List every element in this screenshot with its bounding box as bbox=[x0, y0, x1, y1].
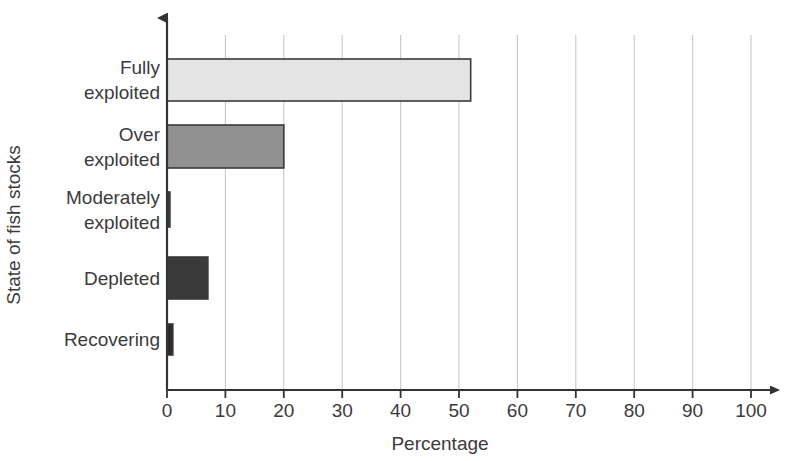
x-axis-title: Percentage bbox=[391, 433, 488, 454]
x-tick-label-90: 90 bbox=[682, 400, 703, 421]
x-tick-label-40: 40 bbox=[390, 400, 411, 421]
x-tick-label-80: 80 bbox=[624, 400, 645, 421]
category-label-over-exploited: Overexploited bbox=[84, 124, 161, 170]
category-label-moderately-exploited: Moderatelyexploited bbox=[66, 187, 160, 233]
bars-group bbox=[167, 59, 471, 355]
x-tick-label-60: 60 bbox=[507, 400, 528, 421]
x-tick-label-100: 100 bbox=[735, 400, 767, 421]
x-tick-label-30: 30 bbox=[332, 400, 353, 421]
bar-over-exploited bbox=[167, 125, 284, 168]
category-label-depleted: Depleted bbox=[84, 268, 160, 289]
y-axis-category-labels: FullyexploitedOverexploitedModeratelyexp… bbox=[64, 57, 161, 350]
chart-canvas: 0102030405060708090100 FullyexploitedOve… bbox=[0, 0, 788, 461]
bar-fully-exploited bbox=[167, 59, 471, 101]
x-tick-label-70: 70 bbox=[565, 400, 586, 421]
category-label-fully-exploited: Fullyexploited bbox=[84, 57, 161, 103]
x-tick-label-0: 0 bbox=[162, 400, 173, 421]
category-label-recovering: Recovering bbox=[64, 329, 160, 350]
x-axis-ticks bbox=[167, 390, 751, 398]
x-tick-label-20: 20 bbox=[273, 400, 294, 421]
x-axis-tick-labels: 0102030405060708090100 bbox=[162, 400, 767, 421]
x-tick-label-10: 10 bbox=[215, 400, 236, 421]
bar-chart: 0102030405060708090100 FullyexploitedOve… bbox=[0, 0, 788, 461]
x-tick-label-50: 50 bbox=[448, 400, 469, 421]
bar-depleted bbox=[167, 257, 208, 299]
y-axis-title: State of fish stocks bbox=[3, 145, 24, 304]
